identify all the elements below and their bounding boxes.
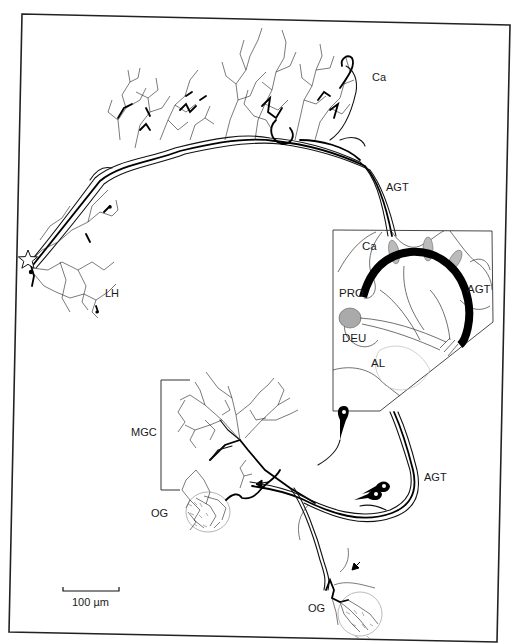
arrow-lower-og	[352, 562, 360, 570]
lower-og-arborization	[326, 548, 382, 639]
label-og-lower: OG	[308, 603, 325, 614]
inset-label-calyx: Ca	[362, 241, 377, 253]
label-scale-bar: 100 µm	[72, 597, 109, 608]
figure-frame	[9, 14, 510, 642]
agt-tract-upper	[30, 136, 396, 268]
label-mgc: MGC	[131, 427, 157, 438]
label-og-upper: OG	[151, 508, 168, 519]
label-agt-top: AGT	[386, 182, 409, 193]
inset-brain-diagram	[333, 230, 493, 411]
inset-label-agt: AGT	[467, 284, 491, 296]
scale-bar	[63, 587, 119, 591]
inset-label-antennal-lobe: AL	[371, 358, 385, 370]
neuron-figure	[0, 0, 516, 644]
inset-label-deutocerebrum: DEU	[342, 333, 366, 345]
label-agt-bottom: AGT	[424, 472, 447, 483]
calyx-arborization	[108, 28, 365, 148]
label-lateral-horn: LH	[105, 288, 119, 299]
mgc-arborization	[161, 372, 315, 508]
agt-tract-lower	[250, 406, 418, 590]
label-calyx: Ca	[372, 72, 386, 83]
inset-label-protocerebrum: PRO	[339, 288, 364, 300]
star-marker	[18, 250, 37, 268]
